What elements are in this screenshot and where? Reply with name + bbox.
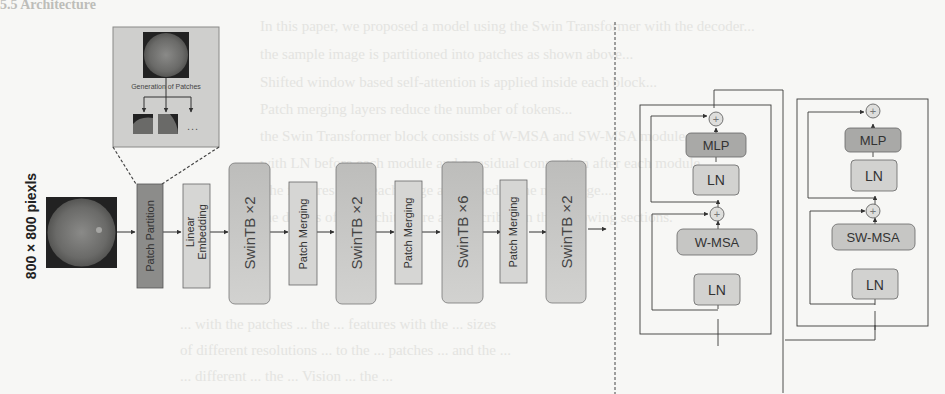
block1-ln-bottom-label: LN bbox=[708, 282, 726, 298]
input-size-label: 800 × 800 piexls bbox=[23, 173, 39, 279]
svg-text:+: + bbox=[870, 205, 876, 217]
linear-embedding-line1: Linear bbox=[184, 204, 196, 260]
block2-ln-bottom-label: LN bbox=[866, 277, 884, 293]
svg-text:+: + bbox=[870, 105, 876, 117]
block1-mlp-label: MLP bbox=[703, 138, 730, 153]
block1-ln-top-label: LN bbox=[707, 172, 725, 188]
swintb-2-label: SwinTB ×2 bbox=[348, 197, 365, 270]
patch-merging-2-label: Patch Merging bbox=[402, 198, 414, 269]
patch-merging-1-label: Patch Merging bbox=[297, 199, 309, 270]
inset-title: Generation of Patches bbox=[131, 83, 201, 90]
block2-attn-label: SW-MSA bbox=[846, 230, 899, 245]
patch-merging-3-label: Patch Merging bbox=[507, 197, 519, 268]
diagram-canvas: + + + + bbox=[0, 0, 945, 394]
linear-embedding-line2: Embedding bbox=[196, 204, 208, 260]
block2-ln-top-label: LN bbox=[865, 168, 883, 184]
input-image bbox=[46, 197, 117, 268]
svg-text:+: + bbox=[713, 113, 719, 125]
patch-generation-inset bbox=[113, 27, 219, 184]
linear-embedding-label: Linear Embedding bbox=[184, 204, 208, 260]
inset-ellipsis: ... bbox=[187, 120, 199, 132]
swintb-4-label: SwinTB ×2 bbox=[558, 196, 575, 269]
block2-mlp-label: MLP bbox=[860, 133, 887, 148]
patch-partition-label: Patch Partition bbox=[144, 200, 156, 272]
swintb-1-label: SwinTB ×2 bbox=[241, 197, 258, 270]
svg-text:+: + bbox=[714, 208, 720, 220]
swintb-3-label: SwinTB ×6 bbox=[454, 196, 471, 269]
block1-attn-label: W-MSA bbox=[695, 235, 740, 250]
